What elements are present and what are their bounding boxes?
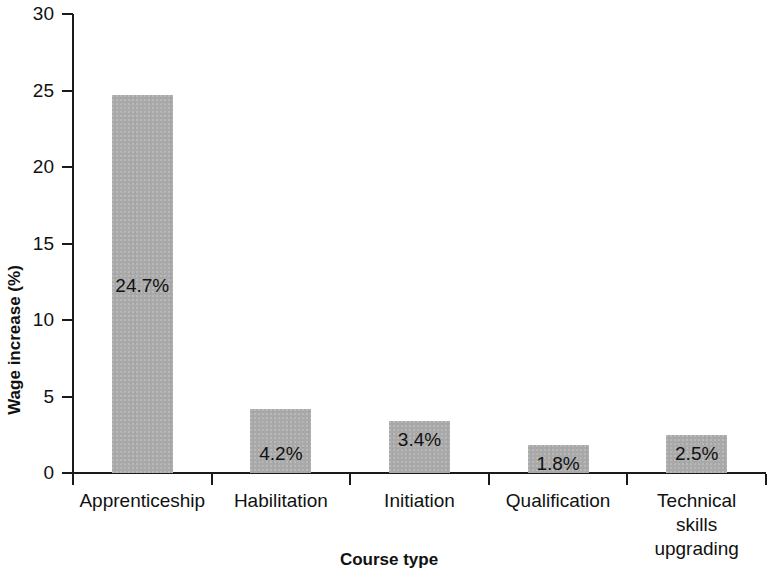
- x-category-label: Apprenticeship: [79, 489, 205, 513]
- bar-value-label: 3.4%: [398, 429, 441, 451]
- x-tick-mark: [488, 474, 490, 485]
- y-tick-label: 25: [0, 80, 54, 102]
- y-tick-label: 15: [0, 233, 54, 255]
- bar-value-label: 1.8%: [536, 453, 579, 475]
- x-tick-mark: [626, 474, 628, 485]
- x-tick-mark: [349, 474, 351, 485]
- x-category-label: Habilitation: [234, 489, 328, 513]
- y-axis-line: [72, 14, 74, 474]
- y-tick-label: 30: [0, 3, 54, 25]
- x-axis-title: Course type: [0, 550, 778, 570]
- bar-chart: Wage increase (%) 051015202530 24.7%4.2%…: [0, 0, 778, 583]
- x-category-label: Initiation: [384, 489, 455, 513]
- x-category-label: Qualification: [506, 489, 611, 513]
- y-tick-label: 0: [0, 462, 54, 484]
- bar-value-label: 24.7%: [115, 275, 169, 297]
- x-tick-mark: [765, 474, 767, 485]
- bar-value-label: 2.5%: [675, 443, 718, 465]
- y-tick-label: 20: [0, 156, 54, 178]
- y-tick-label: 5: [0, 386, 54, 408]
- y-tick-label: 10: [0, 309, 54, 331]
- bar-value-label: 4.2%: [259, 443, 302, 465]
- x-tick-mark: [211, 474, 213, 485]
- x-tick-mark: [72, 474, 74, 485]
